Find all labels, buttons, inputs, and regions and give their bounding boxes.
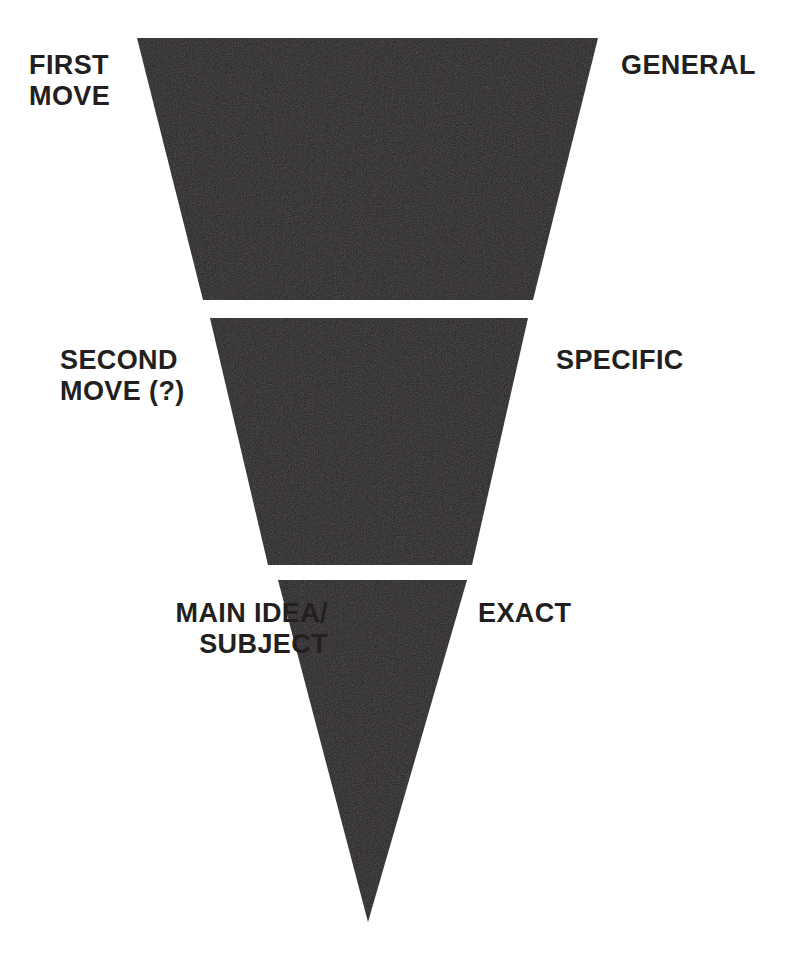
funnel-segment-second-move [210,318,528,565]
stage-label-first-move: FIRST MOVE [29,50,110,112]
stage-label-main-idea-subject: MAIN IDEA/ SUBJECT [28,598,328,660]
stage-label-second-move: SECOND MOVE (?) [60,345,185,407]
specificity-label-exact: EXACT [478,598,572,629]
funnel-segment-first-move [137,38,598,300]
specificity-label-general: GENERAL [621,50,756,81]
inverted-pyramid-diagram: FIRST MOVE SECOND MOVE (?) MAIN IDEA/ SU… [0,0,791,964]
funnel-graphic [0,0,791,964]
specificity-label-specific: SPECIFIC [556,345,684,376]
